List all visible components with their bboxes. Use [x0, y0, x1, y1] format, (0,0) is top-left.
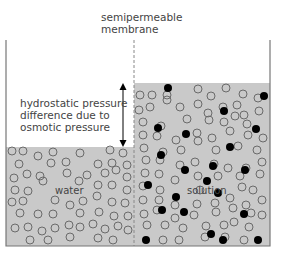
solution-label: solution — [187, 185, 227, 197]
solute-molecule — [226, 143, 234, 151]
arrow-up-icon — [120, 83, 127, 90]
solute-molecule — [144, 181, 152, 189]
solute-molecule — [203, 177, 211, 185]
solute-molecule — [181, 166, 189, 174]
solute-molecule — [260, 92, 268, 100]
membrane-label-line-1: semipermeable — [101, 11, 183, 23]
membrane-label: semipermeable membrane — [101, 11, 183, 35]
solute-molecule — [252, 125, 260, 133]
pressure-label-line-3: osmotic pressure — [20, 121, 128, 133]
pressure-label-line-1: hydrostatic pressure — [20, 97, 128, 109]
solute-molecule — [157, 151, 165, 159]
solute-molecule — [182, 130, 190, 138]
solute-molecule — [209, 162, 217, 170]
solute-molecule — [207, 230, 215, 238]
solute-molecule — [219, 236, 227, 244]
solute-molecule — [241, 166, 249, 174]
solute-molecule — [142, 236, 150, 244]
arrow-down-icon — [120, 140, 127, 147]
solute-molecule — [254, 236, 262, 244]
pressure-label-line-2: difference due to — [20, 109, 128, 121]
pressure-label: hydrostatic pressure difference due to o… — [20, 97, 128, 133]
solute-molecule — [240, 210, 248, 218]
solute-molecule — [220, 107, 228, 115]
solute-molecule — [180, 208, 188, 216]
membrane-label-line-2: membrane — [101, 23, 183, 35]
solute-molecule — [164, 84, 172, 92]
water-label: water — [55, 185, 84, 197]
solute-molecule — [172, 193, 180, 201]
solute-molecule — [154, 124, 162, 132]
solute-molecule — [158, 206, 166, 214]
